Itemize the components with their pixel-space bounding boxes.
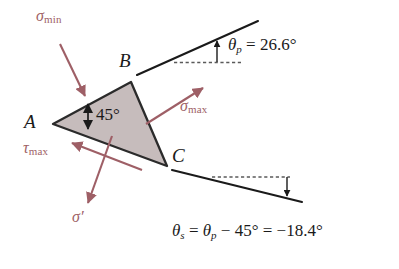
vertex-label-a: A xyxy=(24,112,36,131)
interior-angle-label: 45° xyxy=(96,106,120,123)
sigma-max-symbol: σ xyxy=(180,97,188,114)
theta-s-value: −18.4° xyxy=(277,221,323,240)
theta-s-subscript: s xyxy=(180,229,184,241)
tau-max-label: τmax xyxy=(23,140,48,157)
tau-max-subscript: max xyxy=(29,145,49,157)
sigma-prime-mark: ′ xyxy=(80,207,84,226)
theta-s-theta-p-subscript: p xyxy=(211,229,217,241)
sigma-min-arrow xyxy=(60,44,85,96)
sigma-prime-symbol: σ xyxy=(72,208,80,225)
vertex-label-c: C xyxy=(172,146,185,165)
theta-s-minus-term: − 45° xyxy=(221,221,259,240)
sigma-max-label: σmax xyxy=(180,98,207,115)
theta-s-equals-first: = xyxy=(189,221,199,240)
sigma-prime-label: σ′ xyxy=(72,208,84,225)
sigma-min-subscript: min xyxy=(44,13,62,25)
theta-s-equals-second: = xyxy=(263,221,273,240)
theta-p-annotation: θp = 26.6° xyxy=(228,36,297,55)
theta-s-reference-line xyxy=(172,170,302,202)
vertex-label-b: B xyxy=(119,51,131,70)
sigma-min-symbol: σ xyxy=(36,7,44,24)
sigma-max-subscript: max xyxy=(188,103,208,115)
stress-element-figure: σmin σmax τmax σ′ A B C 45° θp = 26.6° θ… xyxy=(0,0,399,269)
theta-s-theta-p-symbol: θ xyxy=(203,221,211,240)
theta-p-value: 26.6° xyxy=(260,35,297,54)
theta-s-annotation: θs = θp − 45° = −18.4° xyxy=(172,222,323,241)
theta-p-subscript: p xyxy=(236,43,242,55)
sigma-min-label: σmin xyxy=(36,8,62,25)
stress-wedge xyxy=(53,82,167,166)
sigma-prime-arrow xyxy=(88,136,112,203)
theta-p-equals: = xyxy=(246,35,256,54)
